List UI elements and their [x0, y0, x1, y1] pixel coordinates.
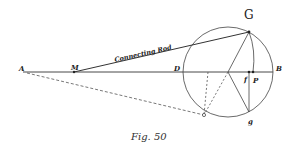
label-f: f — [243, 75, 249, 84]
arc-to-P — [249, 32, 254, 72]
crank-arm-upper — [228, 32, 249, 72]
crank-diagram: G A M D B f P g Connecting Rod Fig. 50 — [0, 0, 292, 150]
label-D: D — [173, 64, 181, 73]
dashed-rod-line — [27, 73, 204, 115]
crank-pin-point — [248, 31, 251, 34]
label-P: P — [252, 76, 259, 85]
label-g: g — [248, 117, 253, 126]
label-M: M — [70, 63, 79, 72]
dashed-crank — [204, 72, 228, 115]
figure-caption: Fig. 50 — [130, 131, 167, 142]
point-f — [248, 71, 251, 74]
point-P — [252, 71, 255, 74]
label-G: G — [244, 8, 254, 22]
label-A: A — [18, 64, 25, 73]
point-lower — [202, 113, 205, 116]
connecting-rod-label: Connecting Rod — [114, 43, 173, 64]
label-B: B — [275, 64, 282, 73]
